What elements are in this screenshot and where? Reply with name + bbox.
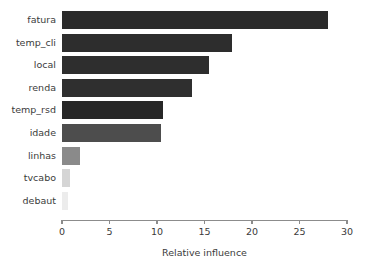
- x-tick-label: 20: [246, 226, 258, 237]
- x-tick-label: 25: [293, 226, 305, 237]
- bar: [62, 147, 80, 165]
- x-tick-mark: [156, 220, 157, 224]
- bar-row: fatura: [62, 9, 347, 32]
- bar: [62, 34, 232, 52]
- x-tick-label: 15: [198, 226, 210, 237]
- bar-category-label: idade: [30, 124, 56, 142]
- x-tick-label: 10: [151, 226, 163, 237]
- bar-category-label: renda: [29, 79, 56, 97]
- x-tick-mark: [299, 220, 300, 224]
- bar-category-label: debaut: [23, 192, 56, 210]
- x-tick-mark: [204, 220, 205, 224]
- bar-row: renda: [62, 77, 347, 100]
- bar: [62, 56, 209, 74]
- plot-area: faturatemp_clilocalrendatemp_rsdidadelin…: [62, 8, 347, 213]
- bar-row: debaut: [62, 190, 347, 213]
- x-tick-label: 0: [59, 226, 65, 237]
- x-tick-mark: [251, 220, 252, 224]
- bar-row: linhas: [62, 145, 347, 168]
- bar-row: tvcabo: [62, 167, 347, 190]
- bar-row: local: [62, 54, 347, 77]
- bar-category-label: tvcabo: [24, 169, 56, 187]
- bar-category-label: temp_cli: [16, 34, 56, 52]
- x-tick-label: 5: [106, 226, 112, 237]
- x-tick-mark: [346, 220, 347, 224]
- bar-category-label: linhas: [28, 147, 56, 165]
- bar-category-label: fatura: [27, 11, 56, 29]
- bar: [62, 169, 70, 187]
- x-tick-label: 30: [341, 226, 353, 237]
- bar-row: idade: [62, 122, 347, 145]
- x-tick-mark: [109, 220, 110, 224]
- bar: [62, 11, 328, 29]
- bar: [62, 124, 161, 142]
- x-tick-mark: [61, 220, 62, 224]
- bar-category-label: local: [34, 56, 56, 74]
- bar-chart: faturatemp_clilocalrendatemp_rsdidadelin…: [0, 0, 366, 272]
- bar: [62, 101, 163, 119]
- bar: [62, 192, 68, 210]
- bar-category-label: temp_rsd: [12, 101, 57, 119]
- x-axis-title: Relative influence: [62, 247, 347, 258]
- bar-row: temp_rsd: [62, 99, 347, 122]
- x-axis-title-label: Relative influence: [162, 247, 247, 258]
- bar-row: temp_cli: [62, 32, 347, 55]
- bar: [62, 79, 192, 97]
